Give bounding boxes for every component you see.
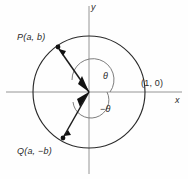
y-axis-label: y	[91, 2, 96, 12]
point-p-dot	[56, 45, 61, 50]
negative-theta-label: −θ	[100, 104, 111, 114]
unit-point-label: (1, 0)	[141, 78, 163, 88]
theta-label: θ	[103, 71, 108, 81]
arrowhead-to-p	[59, 49, 66, 56]
unit-circle-figure: P(a, b) Q(a, −b) (1, 0) θ −θ y x	[0, 0, 188, 179]
x-axis-label: x	[175, 95, 180, 105]
point-q-dot	[61, 136, 66, 141]
origin-notch-lower	[77, 92, 89, 107]
point-q-label: Q(a, −b)	[17, 146, 52, 156]
radius-to-q	[64, 92, 89, 136]
point-p-label: P(a, b)	[17, 32, 45, 42]
